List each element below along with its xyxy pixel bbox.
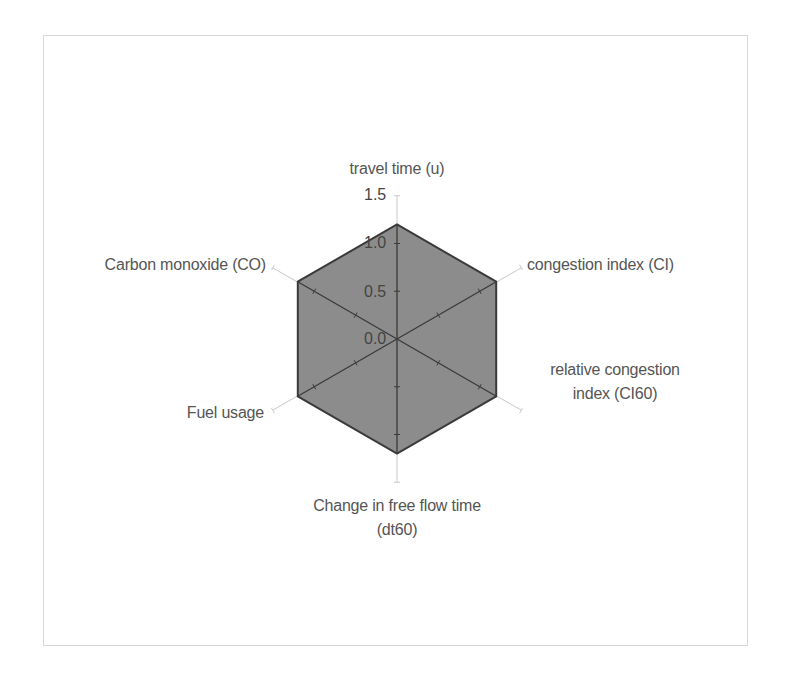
axis-label-relative-congestion: relative congestion index (CI60)	[520, 358, 710, 406]
axis-label-congestion-index: congestion index (CI)	[527, 253, 674, 277]
axis-label-free-flow-line2: (dt60)	[247, 518, 547, 542]
tick-label-1-5: 1.5	[364, 186, 386, 204]
axis-label-free-flow-line1: Change in free flow time	[247, 494, 547, 518]
axis-tick-mark	[520, 408, 523, 413]
radar-chart	[0, 0, 790, 681]
axis-tick-mark	[271, 408, 274, 413]
axis-tick-mark	[271, 265, 274, 270]
tick-label-1-0: 1.0	[364, 234, 386, 252]
axis-label-carbon-monoxide: Carbon monoxide (CO)	[105, 253, 266, 277]
axis-label-fuel-usage: Fuel usage	[187, 401, 264, 425]
axis-label-travel-time: travel time (u)	[297, 157, 497, 181]
axis-label-free-flow-time: Change in free flow time (dt60)	[247, 494, 547, 542]
axis-tick-mark	[520, 265, 523, 270]
tick-label-0-5: 0.5	[364, 283, 386, 301]
tick-label-0-0: 0.0	[364, 330, 386, 348]
axis-label-relative-congestion-line2: index (CI60)	[520, 382, 710, 406]
axis-label-relative-congestion-line1: relative congestion	[520, 358, 710, 382]
